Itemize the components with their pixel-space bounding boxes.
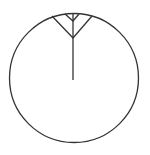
circle-diagram — [0, 0, 150, 155]
outer-circle — [10, 14, 139, 143]
inner-v-shape — [65, 14, 79, 21]
